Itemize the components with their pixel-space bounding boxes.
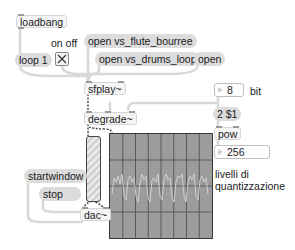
levels-comment-line1: livelli di [215,168,285,180]
levels-comment: livelli di quantizzazione [215,168,285,192]
bit-label: bit [250,85,261,97]
power-message[interactable]: 2 $1 [213,107,241,121]
loadbang-object[interactable]: loadbang [16,15,67,28]
toggle-label: on off [51,37,77,49]
bit-value: 8 [227,84,233,96]
startwindow-message[interactable]: startwindow [24,169,87,183]
inlet [118,81,124,83]
inlet [129,111,135,113]
number-triangle-icon [218,149,223,155]
inlet [82,207,88,209]
sfplay-label: sfplay~ [88,83,122,95]
gain-slider[interactable] [86,136,101,202]
open-flute-message[interactable]: open vs_flute_bourree [84,34,197,48]
bit-number-box[interactable]: 8 [214,83,244,97]
inlet [103,207,109,209]
inlet [86,111,92,113]
inlet [233,126,239,128]
waveform-trace [112,174,208,202]
inlet [216,126,222,128]
open-drums-message[interactable]: open vs_drums_loop [95,52,200,66]
levels-number-box[interactable]: 256 [214,145,270,159]
inlet [105,111,111,113]
sfplay-object[interactable]: sfplay~ [84,82,126,95]
oscilloscope [109,133,213,239]
play-toggle[interactable] [55,52,69,66]
outlet [18,27,24,29]
open-message[interactable]: open [194,52,225,66]
degrade-object[interactable]: degrade~ [84,112,137,125]
levels-value: 256 [227,146,245,158]
loadbang-label: loadbang [20,16,63,28]
number-triangle-icon [218,87,223,93]
stop-message[interactable]: stop [39,187,81,201]
inlet [18,14,24,16]
levels-comment-line2: quantizzazione [215,180,285,192]
inlet [86,81,92,83]
dac-label: dac~ [84,209,107,221]
pow-label: pow [218,128,237,140]
scope-display [110,134,212,238]
loop-message[interactable]: loop 1 [15,53,52,67]
degrade-label: degrade~ [88,113,133,125]
dac-object[interactable]: dac~ [80,208,111,221]
pow-object[interactable]: pow [214,127,241,140]
x-check-icon [56,53,68,65]
